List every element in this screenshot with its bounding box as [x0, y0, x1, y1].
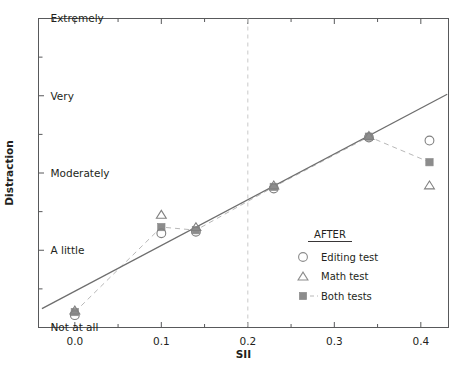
- x-tick-label: 0.1: [153, 335, 170, 347]
- x-axis-title: SII: [236, 348, 251, 360]
- legend-label[interactable]: Editing test: [321, 252, 378, 263]
- y-axis-title: Distraction: [3, 140, 15, 205]
- plot-background: [0, 0, 462, 369]
- x-tick-label: 0.0: [66, 335, 83, 347]
- legend-title: AFTER: [314, 229, 346, 240]
- legend-label[interactable]: Both tests: [321, 291, 372, 302]
- data-point-filled-square: [426, 158, 433, 165]
- x-tick-label: 0.3: [326, 335, 343, 347]
- y-tick-label: Very: [51, 90, 74, 102]
- x-tick-label: 0.2: [239, 335, 256, 347]
- scatter-plot-svg: Not at allA littleModeratelyVeryExtremel…: [0, 0, 462, 369]
- y-tick-label: Extremely: [51, 12, 104, 24]
- x-tick-label: 0.4: [412, 335, 429, 347]
- legend-marker-filled-square: [299, 292, 306, 299]
- y-tick-label: Moderately: [51, 167, 110, 179]
- chart-figure: Not at allA littleModeratelyVeryExtremel…: [0, 0, 462, 369]
- legend-label[interactable]: Math test: [321, 271, 368, 282]
- y-tick-label: A little: [51, 244, 85, 256]
- y-tick-label: Not at all: [51, 321, 99, 333]
